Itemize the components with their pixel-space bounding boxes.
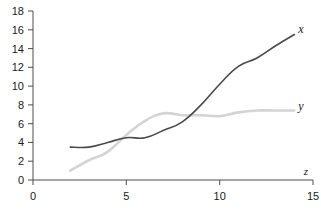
y-axis-ticks	[28, 11, 33, 180]
y-tick-label: 14	[12, 43, 24, 55]
y-tick-label: 12	[12, 61, 24, 73]
series-line-x	[70, 34, 294, 147]
y-tick-label: 18	[12, 5, 24, 17]
x-axis-tick-labels: 0 5 10 15	[30, 190, 319, 202]
y-tick-label: 0	[18, 174, 24, 186]
series-line-y	[70, 110, 294, 170]
x-axis-ticks	[33, 180, 313, 185]
y-tick-label: 10	[12, 80, 24, 92]
series-label-x: x	[297, 22, 304, 36]
x-axis-title: z	[303, 165, 309, 177]
y-tick-label: 4	[18, 136, 24, 148]
y-tick-label: 2	[18, 155, 24, 167]
x-tick-label: 0	[30, 190, 36, 202]
y-tick-label: 6	[18, 118, 24, 130]
series-label-y: y	[297, 99, 304, 113]
y-axis-tick-labels: 0 2 4 6 8 10 12 14 16 18	[12, 5, 24, 186]
x-tick-label: 15	[307, 190, 319, 202]
chart-canvas: 0 2 4 6 8 10 12 14 16 18 0 5 10 15 x y z	[0, 0, 321, 211]
x-tick-label: 10	[214, 190, 226, 202]
x-tick-label: 5	[123, 190, 129, 202]
line-chart: 0 2 4 6 8 10 12 14 16 18 0 5 10 15 x y z	[0, 0, 321, 211]
y-tick-label: 16	[12, 24, 24, 36]
y-tick-label: 8	[18, 99, 24, 111]
